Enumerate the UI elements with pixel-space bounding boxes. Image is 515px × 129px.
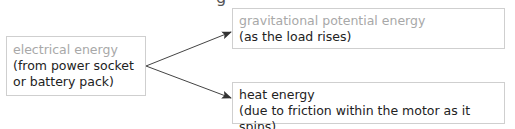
source-line1: (from power socket: [13, 58, 139, 74]
output-line1: (as the load rises): [239, 29, 498, 45]
output-title: heat energy: [239, 87, 498, 103]
output-line1: (due to friction within the motor as it …: [239, 103, 498, 129]
output-title: gravitational potential energy: [239, 13, 498, 29]
output-box-gravitational: gravitational potential energy (as the l…: [232, 8, 505, 49]
source-title: electrical energy: [13, 42, 139, 58]
arrow-to-heat: [146, 66, 231, 98]
source-line2: or battery pack): [13, 74, 139, 90]
arrow-to-gravitational: [146, 32, 231, 66]
output-box-heat: heat energy (due to friction within the …: [232, 82, 505, 124]
source-box-electrical: electrical energy (from power socket or …: [6, 36, 146, 96]
